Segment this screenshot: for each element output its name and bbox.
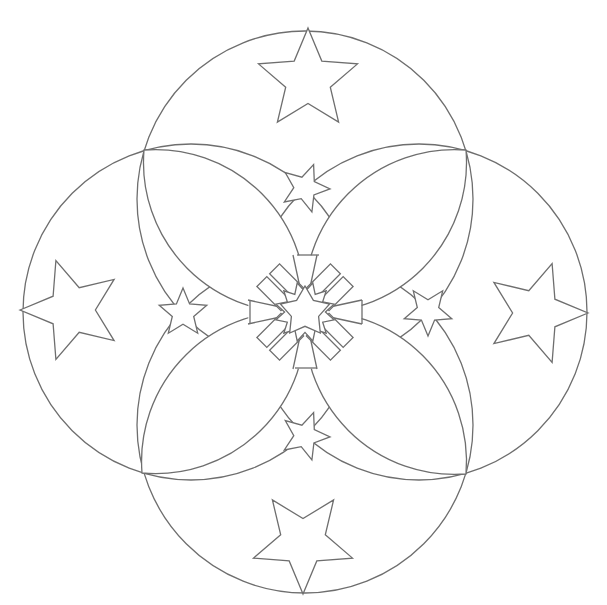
small-star-bottom-icon	[284, 413, 330, 461]
large-star-top-icon	[259, 28, 358, 122]
large-star-left-icon	[20, 261, 114, 360]
large-star-right-icon	[494, 264, 588, 363]
mandala-drawing	[0, 0, 607, 605]
large-star-bottom-icon	[254, 500, 353, 594]
small-star-top-icon	[284, 165, 330, 213]
mandala-canvas: Mandala line art with stars	[0, 0, 607, 605]
